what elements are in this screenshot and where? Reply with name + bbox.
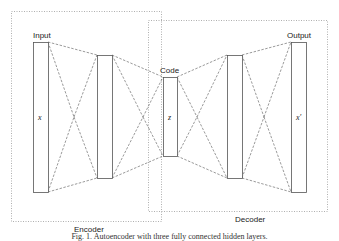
- decoder-label: Decoder: [235, 215, 266, 224]
- hidden-layer-3: [228, 56, 243, 179]
- figure-caption: Fig. 1. Autoencoder with three fully con…: [0, 232, 339, 241]
- code-label: Code: [160, 66, 180, 75]
- input-label: Input: [33, 31, 52, 40]
- hidden-layer-1: [98, 56, 113, 179]
- input-variable-x: x: [37, 113, 42, 122]
- output-label: Output: [287, 31, 312, 40]
- autoencoder-diagram: Input Code Output x z x′ Encoder Decoder: [0, 0, 339, 241]
- connections-hidden3-output: [242, 42, 291, 192]
- connections-hidden1-code: [112, 55, 163, 178]
- connections-input-hidden1: [48, 42, 97, 192]
- output-variable-x-prime: x′: [295, 113, 302, 122]
- connections-code-hidden3: [177, 55, 227, 178]
